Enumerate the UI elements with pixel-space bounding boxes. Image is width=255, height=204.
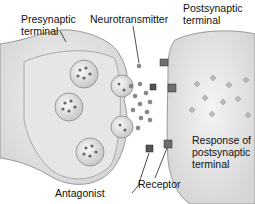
antagonist-molecule (146, 145, 153, 152)
label-presynaptic-terminal: Presynaptic terminal (21, 13, 76, 37)
synapse-diagram: Presynaptic terminal Neurotransmitter Po… (0, 0, 255, 204)
label-antagonist: Antagonist (55, 187, 105, 199)
neurotransmitter-molecules (129, 64, 152, 130)
label-postsynaptic-terminal: Postsynaptic terminal (183, 2, 243, 26)
label-receptor: Receptor (138, 178, 181, 190)
label-response-postsynaptic: Response of postsynaptic terminal (192, 134, 251, 170)
label-neurotransmitter: Neurotransmitter (90, 13, 168, 25)
